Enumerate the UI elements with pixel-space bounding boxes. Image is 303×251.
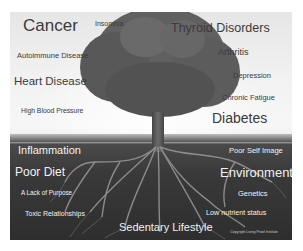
label-depression: Depression [233,72,271,80]
label-autoimmune-disease: Autoimmune Disease [17,52,88,60]
label-cancer: Cancer [23,17,78,34]
tree-roots [10,12,292,240]
label-insomnia: Insomnia [95,20,123,27]
label-inflammation: Inflammation [18,145,81,156]
label-lack-of-purpose: A Lack of Purpose [21,190,72,196]
label-thyroid-disorders: Thyroid Disorders [171,22,270,35]
label-low-nutrient-status: Low nutrient status [206,209,266,216]
label-high-blood-pressure: High Blood Pressure [21,108,83,115]
label-genetics: Genetics [238,190,268,198]
label-diabetes: Diabetes [212,111,267,125]
copyright-notice: Copyright Living Proof Institute [230,230,278,234]
label-poor-diet: Poor Diet [15,166,65,178]
label-sedentary-lifestyle: Sedentary Lifestyle [119,222,213,233]
label-poor-self-image: Poor Self Image [229,147,283,155]
label-arthritis: Arthritis [218,48,249,57]
label-chronic-fatigue: Chronic Fatigue [222,94,275,102]
label-environment: Environment [220,166,292,179]
tree-of-disease-image: Cancer Insomnia Thyroid Disorders Autoim… [10,12,292,240]
label-toxic-relationships: Toxic Relationships [25,210,85,217]
label-heart-disease: Heart Disease [14,76,87,88]
